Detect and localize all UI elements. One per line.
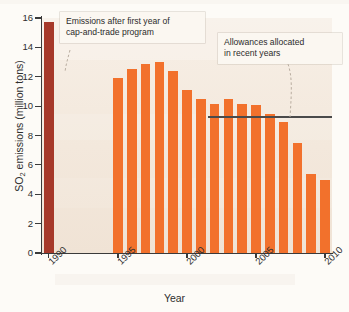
x-axis-title: Year <box>0 292 349 304</box>
y-axis-title-rest: emissions (million tons) <box>13 60 25 172</box>
y-axis-title-subscript: 2 <box>18 172 27 176</box>
annotation-cap-and-trade: Emissions after first year of cap-and-tr… <box>60 12 205 43</box>
annotation-allowances: Allowances allocated in recent years <box>218 33 342 64</box>
so2-emissions-chart-figure: 0246810121416 19901995200020052010 Emiss… <box>0 0 349 312</box>
y-axis-title-main: SO <box>13 177 25 192</box>
y-axis-title: SO2 emissions (million tons) <box>13 11 25 241</box>
